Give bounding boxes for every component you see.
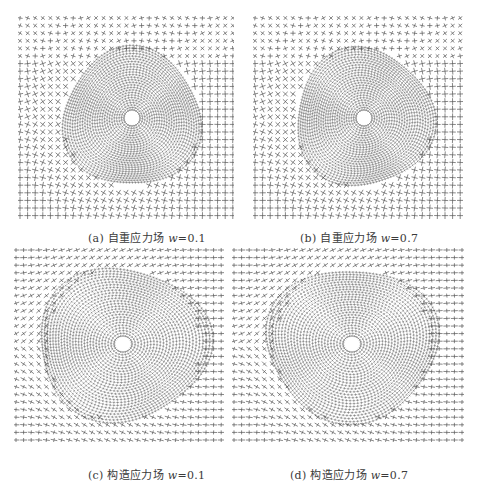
caption-label: (c) <box>88 469 104 482</box>
caption-variable: w <box>381 232 391 245</box>
caption-c: (c) 构造应力场 w=0.1 <box>88 466 205 482</box>
stress-cross-field <box>232 248 464 448</box>
caption-title: 自重应力场 <box>320 232 377 245</box>
caption-value: =0.7 <box>380 469 408 482</box>
caption-value: =0.7 <box>390 232 418 245</box>
caption-variable: w <box>168 469 178 482</box>
stress-cross-field <box>14 248 224 448</box>
caption-label: (b) <box>300 232 317 245</box>
caption-title: 构造应力场 <box>310 469 367 482</box>
caption-a: (a) 自重应力场 w=0.1 <box>88 229 206 245</box>
panel-d-tectonic-stress-field <box>232 248 464 448</box>
panel-a-gravity-stress-field <box>18 16 234 224</box>
caption-value: =0.1 <box>178 232 206 245</box>
caption-d: (d) 构造应力场 w=0.7 <box>290 466 408 482</box>
tunnel-hole <box>116 337 130 351</box>
caption-title: 构造应力场 <box>107 469 164 482</box>
tunnel-hole <box>345 337 359 351</box>
caption-variable: w <box>168 232 178 245</box>
caption-variable: w <box>371 469 381 482</box>
caption-label: (a) <box>88 232 104 245</box>
tunnel-hole <box>125 111 139 125</box>
caption-label: (d) <box>290 469 307 482</box>
stress-cross-field <box>18 16 234 224</box>
caption-b: (b) 自重应力场 w=0.7 <box>300 229 418 245</box>
stress-cross-field <box>253 16 463 224</box>
caption-title: 自重应力场 <box>108 232 165 245</box>
caption-value: =0.1 <box>177 469 205 482</box>
tunnel-hole <box>357 111 371 125</box>
panel-b-gravity-stress-field <box>253 16 463 224</box>
panel-c-tectonic-stress-field <box>14 248 224 448</box>
